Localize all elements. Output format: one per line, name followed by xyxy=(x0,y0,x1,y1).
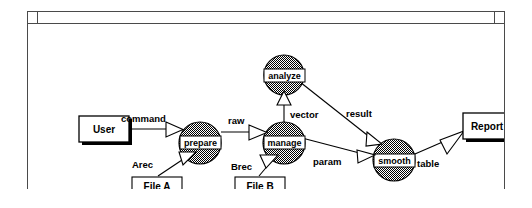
node-manage-label: manage xyxy=(267,138,301,148)
dataflow-diagram-svg: prepare manage analyze xyxy=(28,24,504,189)
arrowhead-manage-smooth xyxy=(357,150,375,163)
box-file-a-label: File A xyxy=(144,181,171,189)
box-user-label: User xyxy=(93,124,115,135)
window-resize-button[interactable] xyxy=(494,12,504,23)
node-smooth[interactable]: smooth xyxy=(373,139,415,181)
box-report[interactable]: Report xyxy=(463,113,504,142)
node-analyze-label: analyze xyxy=(268,71,301,81)
arrowhead-analyze-smooth xyxy=(366,132,382,146)
edge-label-command: command xyxy=(121,113,166,124)
arrowhead-smooth-report xyxy=(440,131,464,154)
edge-label-raw: raw xyxy=(228,115,245,126)
box-report-label: Report xyxy=(471,121,504,132)
edge-label-param: param xyxy=(313,156,342,167)
edge-label-vector: vector xyxy=(290,109,319,120)
window-menu-button[interactable] xyxy=(28,12,38,23)
edge-label-table: table xyxy=(417,158,439,169)
diagram-canvas[interactable]: prepare manage analyze xyxy=(28,24,504,189)
node-smooth-label: smooth xyxy=(378,156,411,166)
edge-label-brec: Brec xyxy=(231,161,252,172)
node-analyze[interactable]: analyze xyxy=(264,55,305,95)
window-title-bar[interactable] xyxy=(28,12,504,24)
edge-label-result: result xyxy=(346,108,373,119)
node-prepare-label: prepare xyxy=(184,138,217,148)
application-window: prepare manage analyze xyxy=(27,11,505,189)
box-file-b[interactable]: File B xyxy=(235,177,285,189)
box-file-a[interactable]: File A xyxy=(132,177,182,189)
box-file-b-label: File B xyxy=(246,181,273,189)
edge-label-arec: Arec xyxy=(132,159,153,170)
